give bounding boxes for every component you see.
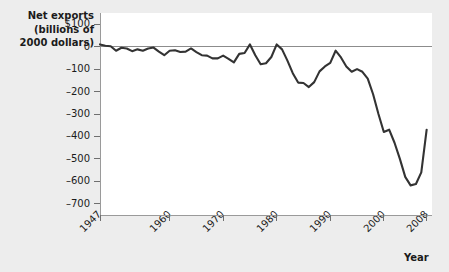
series-line-net-exports [100, 44, 427, 185]
tick-marks [94, 24, 427, 221]
chart-figure: Net exports (billions of 2000 dollars) $… [0, 0, 449, 272]
axis-lines [100, 13, 432, 216]
chart-canvas [0, 0, 449, 272]
data-series-group [100, 44, 427, 185]
